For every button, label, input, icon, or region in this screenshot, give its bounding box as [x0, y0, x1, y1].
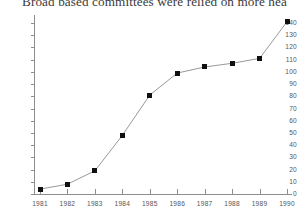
- data-point-marker: [175, 71, 180, 76]
- data-point-marker: [285, 19, 290, 24]
- data-point-marker: [147, 93, 152, 98]
- data-point-marker: [120, 133, 125, 138]
- series-line: [0, 0, 297, 212]
- data-point-marker: [257, 56, 262, 61]
- data-point-marker: [230, 61, 235, 66]
- plot-area: 0102030405060708090100110120130140 19811…: [0, 0, 297, 212]
- data-point-marker: [65, 182, 70, 187]
- chart-figure: Broad based committees were relied on mo…: [0, 0, 297, 212]
- data-point-marker: [38, 187, 43, 192]
- data-point-marker: [202, 64, 207, 69]
- data-point-marker: [92, 168, 97, 173]
